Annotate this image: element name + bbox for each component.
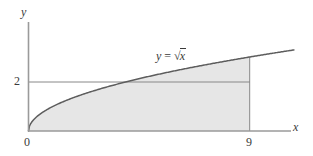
curve-equation-label: y = √x <box>156 50 186 62</box>
y-axis-label: y <box>21 6 26 18</box>
tick-label-origin: 0 <box>24 136 30 148</box>
plot-canvas <box>0 0 313 156</box>
tick-label-x-9: 9 <box>246 136 252 148</box>
tick-label-y-2: 2 <box>14 75 20 87</box>
x-axis-label: x <box>293 121 298 133</box>
radicand: x <box>180 48 186 63</box>
figure-container: y x 0 9 2 y = √x <box>0 0 313 156</box>
area-under-curve <box>29 57 250 131</box>
